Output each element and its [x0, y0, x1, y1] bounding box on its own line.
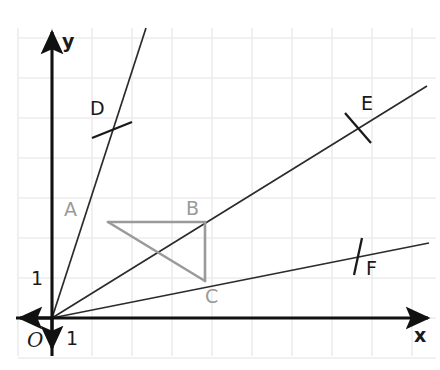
coordinate-figure: y x 1 1 O D E F A B C [0, 0, 440, 370]
point-label-c: C [205, 285, 218, 307]
x-axis-label: x [414, 324, 426, 346]
line-label-f: F [366, 257, 377, 279]
line-label-e: E [361, 92, 373, 114]
diagram-stage: y x 1 1 O D E F A B C [0, 0, 440, 370]
origin-label: O [27, 328, 43, 352]
x-unit-tick-label: 1 [66, 327, 78, 349]
point-label-b: B [186, 197, 199, 219]
y-axis-label: y [62, 30, 75, 52]
line-label-d: D [90, 97, 105, 119]
y-unit-tick-label: 1 [31, 267, 43, 289]
point-label-a: A [64, 198, 77, 220]
